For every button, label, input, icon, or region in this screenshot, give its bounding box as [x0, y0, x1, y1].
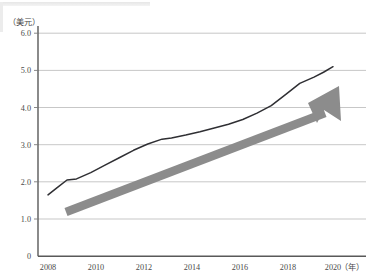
- y-tick-label-0: 0: [27, 252, 31, 261]
- x-tick-label-2014: 2014: [184, 263, 200, 272]
- y-tick-label-3: 3.0: [21, 141, 31, 150]
- y-tick-label-5: 5.0: [21, 66, 31, 75]
- line-chart: 6.0 5.0 4.0 3.0 2.0 1.0 0 （美元） 2008 2010…: [0, 0, 377, 279]
- x-tick-label-2016: 2016: [232, 263, 248, 272]
- x-tick-label-2010: 2010: [88, 263, 104, 272]
- x-axis-unit-label: （年）: [340, 262, 364, 272]
- y-tick-label-1: 1.0: [21, 215, 31, 224]
- y-tick-label-2: 2.0: [21, 178, 31, 187]
- y-axis-tick-labels: 6.0 5.0 4.0 3.0 2.0 1.0 0: [21, 29, 31, 261]
- chart-container: 6.0 5.0 4.0 3.0 2.0 1.0 0 （美元） 2008 2010…: [0, 0, 377, 279]
- scan-artifact-line: [0, 2, 150, 6]
- x-axis-tick-labels: 2008 2010 2012 2014 2016 2018 2020: [40, 263, 341, 272]
- y-tick-label-6: 6.0: [21, 29, 31, 38]
- trend-arrow-shaft: [66, 113, 325, 212]
- x-tick-label-2012: 2012: [136, 263, 152, 272]
- y-tick-label-4: 4.0: [21, 104, 31, 113]
- scan-artifact-edge: [0, 2, 3, 32]
- gridlines: [38, 33, 366, 219]
- x-tick-label-2020: 2020: [325, 263, 341, 272]
- x-tick-label-2008: 2008: [40, 263, 56, 272]
- y-axis-unit-label: （美元）: [8, 17, 40, 27]
- x-tick-label-2018: 2018: [280, 263, 296, 272]
- trend-arrow-annotation: [66, 86, 341, 212]
